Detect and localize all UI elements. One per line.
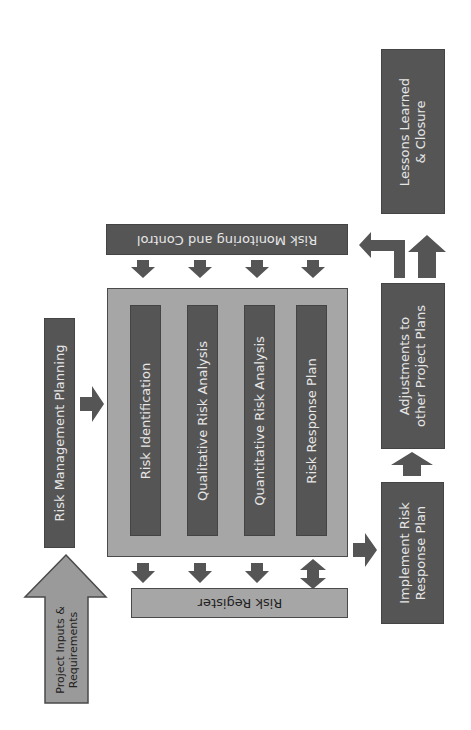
lessons-learned-box: Lessons Learned & Closure [381,49,445,214]
lessons-label-line1: Lessons Learned [397,77,413,185]
lessons-label-line2: & Closure [413,77,429,185]
arrow-up-icon [408,235,446,278]
arrow-bent-left-icon [359,232,405,278]
